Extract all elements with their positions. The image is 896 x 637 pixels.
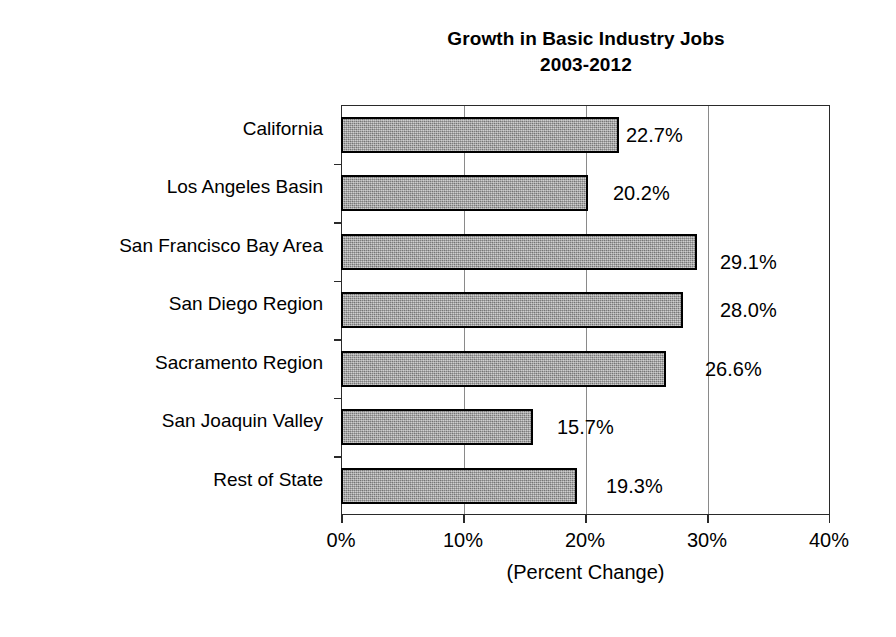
y-axis-label-rest-of-state: Rest of State	[0, 469, 332, 491]
bar-value-sacramento-region: 26.6%	[705, 359, 762, 379]
y-axis-label-california: California	[0, 118, 332, 140]
bars-layer: 22.7% 20.2% 29.1% 28.0% 26.6% 15.7%	[341, 105, 830, 515]
chart-subtitle: 2003-2012	[340, 52, 832, 78]
x-axis-title: (Percent Change)	[341, 560, 830, 584]
bar-row-san-joaquin-valley: 15.7%	[341, 409, 830, 445]
y-tick-3	[334, 281, 341, 283]
bar-rest-of-state[interactable]	[341, 468, 577, 504]
x-tick-30	[707, 515, 709, 523]
bar-value-california: 22.7%	[626, 125, 683, 145]
bar-value-rest-of-state: 19.3%	[606, 476, 663, 496]
bar-row-sacramento-region: 26.6%	[341, 351, 830, 387]
x-tick-10	[463, 515, 465, 523]
bar-chart: Growth in Basic Industry Jobs 2003-2012 …	[0, 0, 896, 637]
bar-row-rest-of-state: 19.3%	[341, 468, 830, 504]
x-axis-tick-label-40: 40%	[809, 528, 849, 552]
chart-title: Growth in Basic Industry Jobs 2003-2012	[340, 26, 832, 78]
y-axis-label-sacramento-region: Sacramento Region	[0, 352, 332, 374]
bar-los-angeles-basin[interactable]	[341, 175, 588, 211]
bar-san-joaquin-valley[interactable]	[341, 409, 533, 445]
bar-row-san-diego-region: 28.0%	[341, 292, 830, 328]
x-tick-0	[341, 515, 343, 523]
x-axis-ticks	[341, 515, 830, 525]
chart-title-main: Growth in Basic Industry Jobs	[447, 28, 724, 49]
y-axis-label-los-angeles-basin: Los Angeles Basin	[0, 176, 332, 198]
x-tick-40	[829, 515, 831, 523]
bar-california[interactable]	[341, 117, 619, 153]
y-tick-6	[334, 456, 341, 458]
x-axis-tick-label-10: 10%	[443, 528, 483, 552]
y-axis-labels: California Los Angeles Basin San Francis…	[0, 105, 332, 515]
bar-row-san-francisco-bay-area: 29.1%	[341, 234, 830, 270]
bar-value-san-francisco-bay-area: 29.1%	[720, 252, 777, 272]
bar-san-francisco-bay-area[interactable]	[341, 234, 697, 270]
bar-row-los-angeles-basin: 20.2%	[341, 175, 830, 211]
bar-san-diego-region[interactable]	[341, 292, 683, 328]
y-tick-1	[334, 164, 341, 166]
bar-value-san-joaquin-valley: 15.7%	[557, 417, 614, 437]
x-tick-20	[585, 515, 587, 523]
x-axis-tick-label-0: 0%	[327, 528, 356, 552]
y-tick-5	[334, 398, 341, 400]
x-axis-tick-label-30: 30%	[687, 528, 727, 552]
y-axis-label-san-joaquin-valley: San Joaquin Valley	[0, 410, 332, 432]
bar-value-san-diego-region: 28.0%	[720, 300, 777, 320]
bar-row-california: 22.7%	[341, 117, 830, 153]
y-tick-2	[334, 222, 341, 224]
y-axis-label-san-francisco-bay-area: San Francisco Bay Area	[0, 235, 332, 257]
bar-sacramento-region[interactable]	[341, 351, 666, 387]
y-axis-label-san-diego-region: San Diego Region	[0, 293, 332, 315]
x-axis-tick-label-20: 20%	[565, 528, 605, 552]
bar-value-los-angeles-basin: 20.2%	[613, 183, 670, 203]
x-axis-tick-labels: 0% 10% 20% 30% 40%	[341, 528, 830, 554]
y-tick-4	[334, 339, 341, 341]
